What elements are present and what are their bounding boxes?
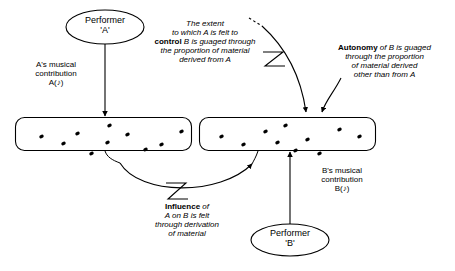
performer-b-line1: Performer [270,228,310,238]
performer-b-line2: 'B' [285,238,294,248]
autonomy-keyword: Autonomy [338,43,378,52]
material-box-b [200,118,376,151]
box-a-arc-stub [105,151,120,163]
performer-a-label: Performer'A' [65,16,145,36]
performer-b-label: Performer'B' [250,229,330,249]
diagram-canvas: Performer'A' Performer'B' A's musical co… [0,0,455,271]
box-b-arc-stub [252,151,258,164]
control-description-label: The extent to which A is felt to control… [138,20,272,65]
material-box-a [16,118,192,151]
performer-a-line2: 'A' [100,25,109,35]
a-contribution-label: A's musical contribution A(♪) [13,61,99,88]
material-dot [317,151,323,156]
autonomy-description-label: Autonomy of B is guaged through the prop… [318,44,451,80]
performer-a-line1: Performer [85,15,125,25]
influence-arc-arrow [120,163,252,188]
control-keyword: control [155,37,182,46]
influence-keyword: Influence [165,202,200,211]
material-dot [89,151,95,156]
b-contribution-label: B's musical contribution B(♪) [299,167,385,194]
influence-description-label: Influence of A on B is felt through deri… [128,203,246,239]
control-text-part1: The extent to which A is felt to [172,19,238,37]
influence-zigzag-icon [166,183,188,199]
autonomy-pointer-curve [322,78,341,112]
